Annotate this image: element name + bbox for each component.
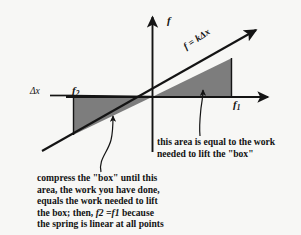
f1-subscript: 1 (237, 103, 241, 112)
f2-subscript: 2 (76, 89, 80, 98)
caption-right-line-2: needed to lift the "box" (157, 148, 297, 160)
caption-right-line-1: this area is equal to the work (157, 136, 297, 148)
delta-x-label: Δx (30, 87, 40, 97)
f2-label: f2 (72, 85, 79, 98)
left-area-pointer-arrow (100, 116, 113, 172)
figure-canvas: Δx f f2 f1 f = kΔx this area is equal to… (0, 0, 301, 235)
caption-left-line-4-pre: the box; then, (37, 207, 93, 218)
caption-left-f2: f2 (96, 207, 104, 218)
f1-label: f1 (233, 99, 240, 112)
caption-left-line-3: equals the work needed to lift (37, 195, 202, 207)
caption-left-line-4: the box; then, f2 =f1 because (37, 207, 202, 219)
y-axis-label: f (167, 15, 171, 26)
caption-left-line-4-post: because (122, 207, 154, 218)
caption-left-line-2: area, the work you have done, (37, 184, 202, 196)
caption-left-line-5: the spring is linear at all points (37, 218, 202, 230)
caption-left-eq-f1: =f1 (106, 207, 119, 218)
caption-left-line-1: compress the "box" until this (37, 172, 202, 184)
caption-left: compress the "box" until this area, the … (37, 172, 202, 230)
caption-right: this area is equal to the work needed to… (157, 136, 297, 159)
shaded-area-right (152, 58, 232, 97)
